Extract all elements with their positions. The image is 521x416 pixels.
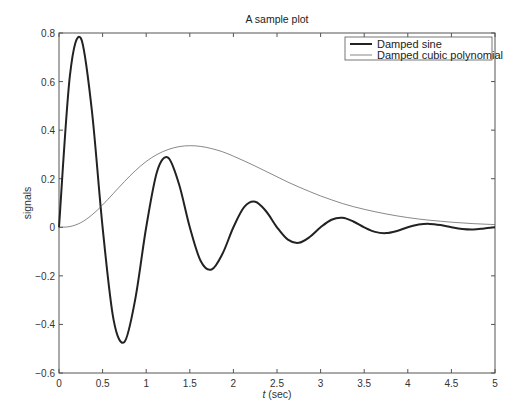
x-tick-label: 3.5	[357, 378, 371, 389]
x-tick-label: 4.5	[444, 378, 458, 389]
x-tick-label: 0	[56, 378, 62, 389]
y-tick-label: 0.8	[41, 28, 55, 39]
y-tick-label: −0.2	[35, 271, 55, 282]
x-axis-label: t (sec)	[262, 388, 291, 400]
y-tick-label: 0	[49, 222, 55, 233]
x-tick-label: 2	[231, 378, 237, 389]
x-tick-label: 0.5	[96, 378, 110, 389]
x-tick-label: 1	[143, 378, 149, 389]
y-tick-label: −0.6	[35, 368, 55, 379]
x-tick-label: 3	[318, 378, 324, 389]
x-tick-label: 1.5	[183, 378, 197, 389]
x-tick-label: 4	[405, 378, 411, 389]
y-tick-label: 0.6	[41, 77, 55, 88]
axes-box	[59, 33, 495, 373]
y-tick-label: 0.4	[41, 125, 55, 136]
line-chart: A sample plot 00.511.522.533.544.55 −0.6…	[0, 0, 521, 416]
x-axis-label-unit: (sec)	[265, 388, 291, 400]
legend-label-damped-cubic: Damped cubic polynomial	[377, 49, 503, 61]
legend: Damped sine Damped cubic polynomial	[345, 37, 503, 61]
plot-area: 00.511.522.533.544.55 −0.6−0.4−0.200.20.…	[35, 28, 498, 389]
y-axis-label: signals	[21, 187, 33, 220]
x-tick-label: 5	[492, 378, 498, 389]
chart-title: A sample plot	[245, 13, 308, 25]
y-tick-label: 0.2	[41, 174, 55, 185]
y-tick-label: −0.4	[35, 319, 55, 330]
